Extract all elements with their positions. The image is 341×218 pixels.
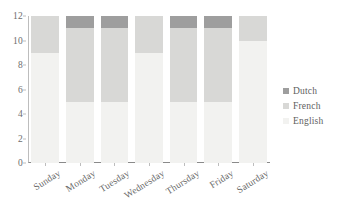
bar-segment-french[interactable]	[170, 28, 198, 102]
bar-segment-french[interactable]	[31, 16, 59, 53]
chart-legend: DutchFrenchEnglish	[283, 86, 323, 126]
x-tick-label-saturday: Saturday	[235, 168, 270, 195]
y-tick-mark	[23, 65, 26, 66]
legend-swatch-icon	[283, 103, 289, 109]
y-tick-mark	[23, 163, 26, 164]
bar-stack[interactable]	[101, 16, 129, 163]
x-tick-mark	[218, 163, 219, 166]
x-tick-mark	[80, 163, 81, 166]
bar-segment-english[interactable]	[204, 102, 232, 163]
y-axis: 024681012	[0, 16, 23, 163]
legend-item-english[interactable]: English	[283, 116, 323, 126]
bar-segment-dutch[interactable]	[66, 16, 94, 28]
y-tick-mark	[23, 138, 26, 139]
legend-swatch-icon	[283, 88, 289, 94]
x-tick-label-thursday: Thursday	[164, 168, 201, 196]
y-tick-mark	[23, 40, 26, 41]
bar-segment-french[interactable]	[135, 16, 163, 53]
x-tick-mark	[184, 163, 185, 166]
bar-segment-french[interactable]	[239, 16, 267, 41]
legend-swatch-icon	[283, 118, 289, 124]
bar-stack[interactable]	[170, 16, 198, 163]
bar-stack[interactable]	[66, 16, 94, 163]
bar-segment-english[interactable]	[170, 102, 198, 163]
x-axis: SundayMondayTuesdayWednesdayThursdayFrid…	[28, 163, 270, 218]
bar-segment-dutch[interactable]	[101, 16, 129, 28]
x-tick-mark	[149, 163, 150, 166]
bar-segment-english[interactable]	[31, 53, 59, 163]
bar-segment-english[interactable]	[66, 102, 94, 163]
y-tick-mark	[23, 89, 26, 90]
x-tick-mark	[45, 163, 46, 166]
x-tick-label-friday: Friday	[208, 168, 235, 190]
bar-segment-english[interactable]	[239, 41, 267, 164]
bar-stack[interactable]	[135, 16, 163, 163]
legend-label: French	[293, 101, 321, 111]
bar-segment-english[interactable]	[101, 102, 129, 163]
y-tick-label: 10	[13, 36, 23, 46]
x-tick-mark	[253, 163, 254, 166]
y-tick-label: 12	[13, 11, 23, 21]
bar-segment-english[interactable]	[135, 53, 163, 163]
bar-segment-french[interactable]	[101, 28, 129, 102]
y-tick-mark	[23, 16, 26, 17]
legend-item-dutch[interactable]: Dutch	[283, 86, 323, 96]
plot-area	[28, 16, 270, 163]
bar-stack[interactable]	[239, 16, 267, 163]
bar-segment-dutch[interactable]	[170, 16, 198, 28]
bar-stack[interactable]	[204, 16, 232, 163]
x-tick-label-monday: Monday	[64, 168, 97, 194]
x-tick-label-sunday: Sunday	[32, 168, 62, 192]
bar-stack[interactable]	[31, 16, 59, 163]
stacked-bar-chart: 024681012 SundayMondayTuesdayWednesdayTh…	[0, 0, 341, 218]
bar-segment-french[interactable]	[66, 28, 94, 102]
y-tick-mark	[23, 114, 26, 115]
legend-label: Dutch	[293, 86, 317, 96]
legend-item-french[interactable]: French	[283, 101, 323, 111]
x-tick-mark	[114, 163, 115, 166]
legend-label: English	[293, 116, 323, 126]
bar-segment-french[interactable]	[204, 28, 232, 102]
bar-segment-dutch[interactable]	[204, 16, 232, 28]
